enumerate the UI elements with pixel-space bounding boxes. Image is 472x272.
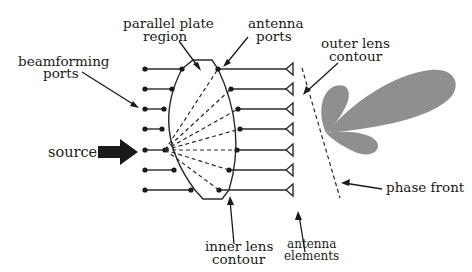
label-inner-lens-2: contour	[212, 251, 266, 267]
beamforming-port-node	[169, 86, 174, 91]
label-parallel-plate-2: region	[143, 28, 188, 44]
label-antenna-elements-2: elements	[284, 249, 339, 263]
label-antenna-ports-2: ports	[256, 28, 292, 44]
label-outer-lens-2: contour	[329, 48, 383, 64]
beamforming-port-node	[171, 167, 176, 172]
beamforming-port-terminal	[142, 66, 147, 71]
beamforming-port-node	[159, 126, 164, 131]
beamforming-port-terminal	[142, 126, 147, 131]
beamforming-port-terminal	[142, 147, 147, 152]
beamforming-port-terminal	[142, 106, 147, 111]
label-beamforming-2: ports	[43, 65, 79, 81]
beamforming-port-node	[188, 187, 193, 192]
beamforming-port-terminal	[142, 187, 147, 192]
beamforming-port-terminal	[142, 86, 147, 91]
beamforming-port-node	[161, 106, 166, 111]
label-phase-front: phase front	[386, 179, 465, 195]
rotman-lens-diagram: parallel plate region antenna ports oute…	[0, 0, 472, 272]
beamforming-port-node	[179, 66, 184, 71]
beamforming-port-terminal	[142, 167, 147, 172]
label-source: source	[48, 144, 97, 160]
antenna-port-node	[235, 106, 240, 111]
